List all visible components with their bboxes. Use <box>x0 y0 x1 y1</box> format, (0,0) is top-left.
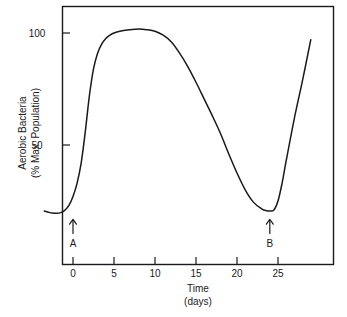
x-axis-ticks <box>73 257 278 265</box>
chart-figure: Aerobic Bacteria (% Max. Population) 100… <box>0 0 347 317</box>
annotation-arrow-b <box>266 219 273 234</box>
plot-frame <box>63 7 334 265</box>
annotation-arrow-a <box>70 219 77 234</box>
y-axis-ticks <box>63 33 71 145</box>
data-series-line <box>44 29 311 213</box>
plot-area <box>0 0 347 317</box>
annotation-arrows <box>70 219 274 234</box>
